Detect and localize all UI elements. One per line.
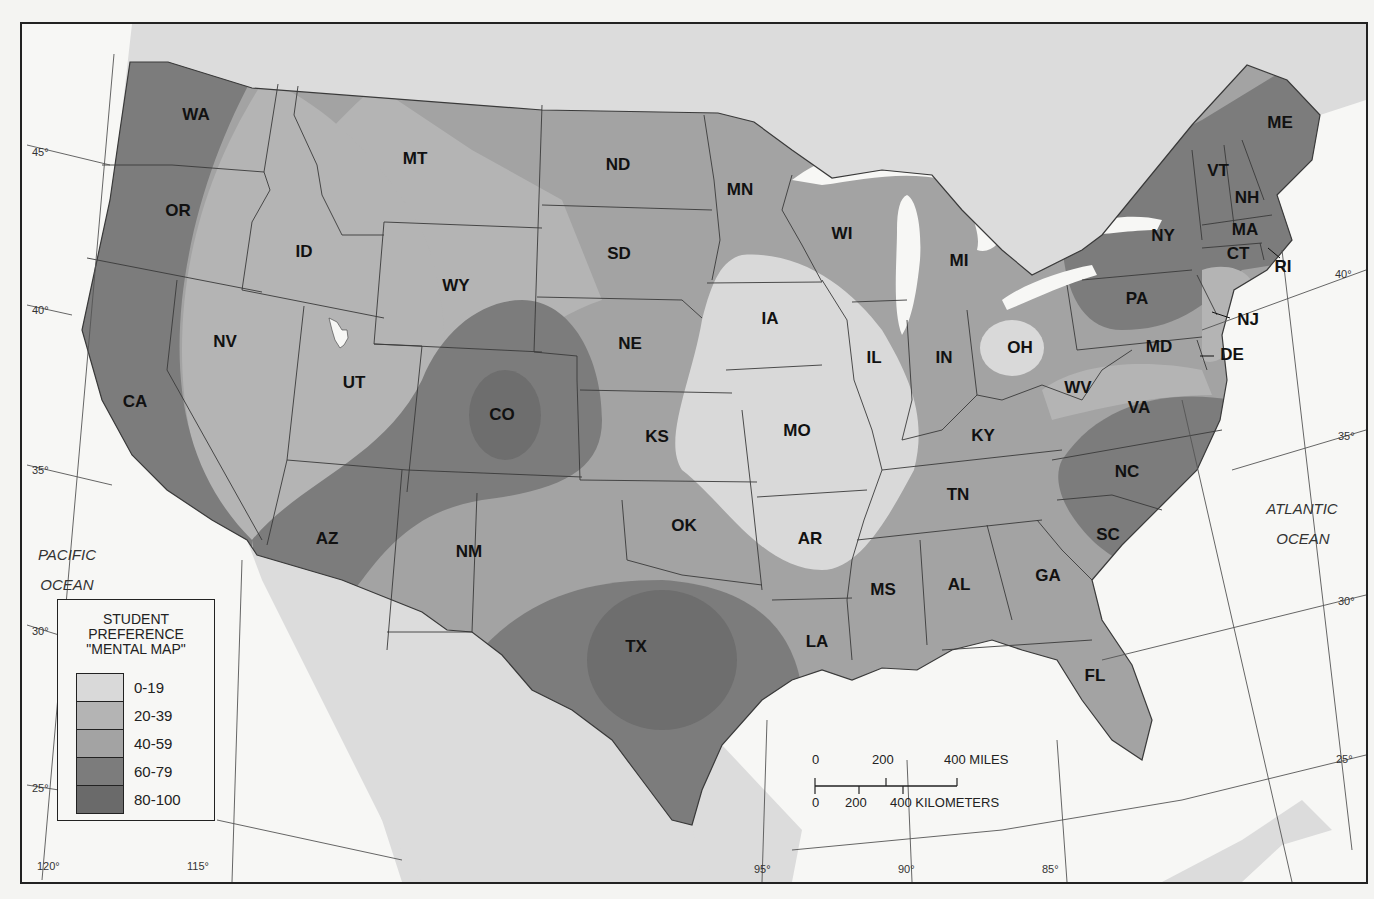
scale-km-0: 0 — [812, 795, 819, 810]
state-label-tn: TN — [947, 485, 970, 504]
state-label-ut: UT — [343, 373, 366, 392]
state-label-la: LA — [806, 632, 829, 651]
state-label-id: ID — [296, 242, 313, 261]
lat-label-35-east: 35° — [1338, 430, 1355, 442]
state-label-sc: SC — [1096, 525, 1120, 544]
state-label-ms: MS — [870, 580, 896, 599]
state-label-pa: PA — [1126, 289, 1148, 308]
state-label-nj: NJ — [1237, 310, 1259, 329]
map-frame: 45° 40° 35° 30° 25° 40° 35° 30° 25° 120°… — [20, 22, 1368, 884]
state-label-ar: AR — [798, 529, 823, 548]
legend-swatch — [76, 673, 124, 702]
scale-km-200: 200 — [845, 795, 867, 810]
legend-swatch — [76, 701, 124, 730]
state-label-mo: MO — [783, 421, 810, 440]
legend-swatch — [76, 785, 124, 814]
state-label-va: VA — [1128, 398, 1150, 417]
state-label-sd: SD — [607, 244, 631, 263]
legend-label: 0-19 — [134, 679, 164, 696]
legend-item: 20-39 — [76, 701, 206, 730]
zone-80-100-texas — [587, 590, 737, 730]
lat-label-25: 25° — [32, 782, 49, 794]
lon-label-115: 115° — [187, 860, 209, 872]
legend-label: 80-100 — [134, 791, 181, 808]
lon-label-95: 95° — [754, 863, 771, 875]
legend: STUDENT PREFERENCE "MENTAL MAP" 0-19 20-… — [57, 599, 215, 821]
state-label-ks: KS — [645, 427, 669, 446]
state-label-mi: MI — [950, 251, 969, 270]
state-label-wv: WV — [1064, 378, 1092, 397]
pacific-ocean-label-line2: OCEAN — [40, 576, 94, 593]
state-label-nc: NC — [1115, 462, 1140, 481]
legend-swatch — [76, 729, 124, 758]
state-label-ct: CT — [1227, 244, 1250, 263]
legend-label: 60-79 — [134, 763, 172, 780]
state-label-fl: FL — [1085, 666, 1106, 685]
state-label-ky: KY — [971, 426, 995, 445]
state-label-tx: TX — [625, 637, 647, 656]
state-label-mn: MN — [727, 180, 753, 199]
lat-label-40-east: 40° — [1335, 268, 1352, 280]
state-label-ca: CA — [123, 392, 148, 411]
state-label-vt: VT — [1207, 161, 1229, 180]
state-label-ia: IA — [762, 309, 779, 328]
state-label-nd: ND — [606, 155, 631, 174]
state-label-ok: OK — [671, 516, 697, 535]
state-label-ny: NY — [1151, 226, 1175, 245]
scale-km-400: 400 KILOMETERS — [890, 795, 999, 810]
state-label-in: IN — [936, 348, 953, 367]
legend-item: 60-79 — [76, 757, 206, 786]
scale-bar: 0 200 400 MILES 0 200 400 KILOMETERS — [802, 748, 1042, 818]
state-label-nh: NH — [1235, 188, 1260, 207]
state-label-az: AZ — [316, 529, 339, 548]
pacific-ocean-label-line1: PACIFIC — [38, 546, 96, 563]
lon-label-120: 120° — [37, 860, 60, 872]
legend-title: STUDENT PREFERENCE "MENTAL MAP" — [58, 612, 214, 657]
state-label-ga: GA — [1035, 566, 1061, 585]
lat-label-35: 35° — [32, 464, 49, 476]
state-label-wy: WY — [442, 276, 470, 295]
state-label-co: CO — [489, 405, 515, 424]
state-label-wa: WA — [182, 105, 209, 124]
legend-title-line3: "MENTAL MAP" — [62, 642, 210, 657]
legend-item: 80-100 — [76, 785, 206, 814]
legend-label: 40-59 — [134, 735, 172, 752]
lat-label-45: 45° — [32, 146, 49, 158]
state-label-de: DE — [1220, 345, 1244, 364]
state-label-nv: NV — [213, 332, 237, 351]
state-label-wi: WI — [832, 224, 853, 243]
legend-item: 0-19 — [76, 673, 206, 702]
legend-item: 40-59 — [76, 729, 206, 758]
lat-label-25-east: 25° — [1336, 753, 1353, 765]
state-label-ma: MA — [1232, 220, 1258, 239]
lon-label-90: 90° — [898, 863, 915, 875]
lon-label-85: 85° — [1042, 863, 1059, 875]
legend-label: 20-39 — [134, 707, 172, 724]
lat-label-30-east: 30° — [1338, 595, 1355, 607]
legend-title-line1: STUDENT — [62, 612, 210, 627]
state-label-al: AL — [948, 575, 971, 594]
map-canvas: 45° 40° 35° 30° 25° 40° 35° 30° 25° 120°… — [22, 24, 1366, 882]
state-label-ri: RI — [1275, 257, 1292, 276]
legend-swatch — [76, 757, 124, 786]
atlantic-ocean-label-line2: OCEAN — [1276, 530, 1330, 547]
legend-title-line2: PREFERENCE — [62, 627, 210, 642]
state-label-md: MD — [1146, 337, 1172, 356]
lat-label-40: 40° — [32, 304, 49, 316]
state-label-oh: OH — [1007, 338, 1033, 357]
state-label-ne: NE — [618, 334, 642, 353]
state-label-me: ME — [1267, 113, 1293, 132]
state-label-il: IL — [866, 348, 881, 367]
state-label-mt: MT — [403, 149, 428, 168]
atlantic-ocean-label-line1: ATLANTIC — [1265, 500, 1338, 517]
state-label-or: OR — [165, 201, 191, 220]
lat-label-30: 30° — [32, 625, 49, 637]
state-label-nm: NM — [456, 542, 482, 561]
